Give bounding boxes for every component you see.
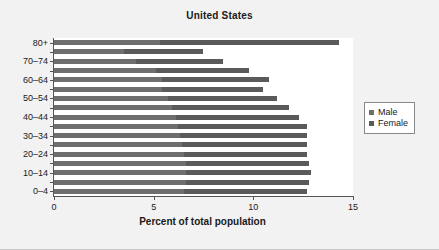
chart-legend: MaleFemale	[364, 102, 415, 134]
bar-segment-male	[54, 68, 156, 73]
bar-segment-male	[54, 133, 180, 138]
bar-segment-male	[54, 170, 186, 175]
x-axis-tick	[353, 196, 354, 200]
x-axis-tick-label: 15	[348, 202, 358, 212]
bar-row	[54, 170, 311, 175]
bar-segment-female	[162, 87, 264, 92]
bar-segment-female	[172, 105, 290, 110]
bar-row	[54, 115, 299, 120]
bar-segment-male	[54, 142, 182, 147]
bar-segment-male	[54, 77, 162, 82]
bar-segment-female	[186, 170, 312, 175]
chart-title: United States	[0, 10, 439, 21]
bar-segment-male	[54, 96, 168, 101]
legend-label: Female	[378, 118, 408, 129]
legend-swatch-icon	[369, 110, 374, 115]
bar-row	[54, 49, 204, 54]
bar-segment-male	[54, 49, 124, 54]
x-axis-tick	[54, 196, 55, 200]
bar-row	[54, 152, 307, 157]
chart-figure: United States 0–410–1420–2430–3440–4450–…	[0, 0, 439, 250]
x-axis-tick-label: 5	[151, 202, 156, 212]
y-axis-tick-label: 70–74	[23, 56, 48, 66]
bar-row	[54, 87, 263, 92]
bar-segment-female	[186, 180, 310, 185]
bar-segment-female	[136, 59, 224, 64]
bar-row	[54, 180, 309, 185]
bar-segment-female	[186, 161, 310, 166]
bar-segment-female	[184, 152, 308, 157]
bar-segment-male	[54, 152, 184, 157]
bar-segment-male	[54, 40, 160, 45]
bar-segment-female	[168, 96, 278, 101]
bar-segment-male	[54, 180, 186, 185]
bar-segment-female	[184, 189, 308, 194]
plot-area: 0–410–1420–2430–3440–4450–5460–6470–7480…	[53, 38, 353, 197]
bar-row	[54, 133, 307, 138]
bar-row	[54, 68, 249, 73]
legend-swatch-icon	[369, 121, 374, 126]
bar-row	[54, 96, 277, 101]
bar-segment-male	[54, 115, 176, 120]
bar-segment-female	[124, 49, 204, 54]
y-axis-tick-label: 60–64	[23, 75, 48, 85]
bar-row	[54, 77, 269, 82]
bars-layer	[54, 38, 353, 196]
bar-row	[54, 59, 223, 64]
x-axis-label: Percent of total population	[53, 216, 352, 227]
legend-item: Male	[369, 107, 408, 118]
x-axis-tick	[253, 196, 254, 200]
bar-row	[54, 189, 307, 194]
bar-segment-male	[54, 87, 162, 92]
legend-label: Male	[378, 107, 398, 118]
x-axis-tick-label: 10	[248, 202, 258, 212]
bar-segment-female	[156, 68, 250, 73]
y-axis-tick-label: 30–34	[23, 131, 48, 141]
bar-segment-female	[160, 40, 339, 45]
bar-row	[54, 161, 309, 166]
bar-segment-female	[182, 142, 308, 147]
bar-segment-female	[180, 133, 308, 138]
bar-segment-female	[162, 77, 270, 82]
bar-row	[54, 105, 289, 110]
y-axis-tick-label: 80+	[33, 38, 48, 48]
bar-segment-male	[54, 124, 178, 129]
bar-row	[54, 124, 307, 129]
y-axis-tick-label: 20–24	[23, 149, 48, 159]
x-axis-tick	[154, 196, 155, 200]
y-axis-tick-label: 10–14	[23, 168, 48, 178]
bar-segment-female	[176, 115, 300, 120]
bar-segment-male	[54, 189, 184, 194]
bar-segment-female	[178, 124, 308, 129]
bar-segment-male	[54, 59, 136, 64]
x-axis-tick-label: 0	[51, 202, 56, 212]
y-axis-tick-label: 50–54	[23, 93, 48, 103]
legend-item: Female	[369, 118, 408, 129]
bar-row	[54, 40, 339, 45]
bar-segment-male	[54, 161, 186, 166]
bar-segment-male	[54, 105, 172, 110]
y-axis-tick-label: 40–44	[23, 112, 48, 122]
bar-row	[54, 142, 307, 147]
y-axis-tick-label: 0–4	[33, 186, 48, 196]
